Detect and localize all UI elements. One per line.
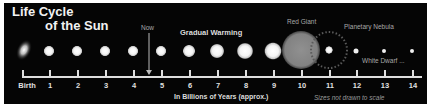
tick-8 (245, 70, 247, 77)
sun-stage-5-icon (156, 46, 167, 57)
sun-stage-1-icon (44, 46, 55, 57)
tick-10 (301, 70, 303, 77)
tick-label-11: 11 (326, 81, 334, 90)
axis-label: In Billions of Years (approx.) (174, 93, 268, 100)
tick-label-6: 6 (188, 81, 192, 90)
tick-9 (273, 70, 275, 77)
sun-stage-8-icon (237, 43, 254, 60)
sun-stage-7-icon (210, 44, 225, 59)
tick-2 (77, 70, 79, 77)
sun-stage-9-icon (264, 42, 282, 60)
now-arrow-icon (146, 33, 152, 75)
tick-label-14: 14 (409, 81, 417, 90)
tick-label-5: 5 (160, 81, 164, 90)
sun-stage-3-icon (100, 46, 111, 57)
tick-label-12: 12 (353, 81, 361, 90)
timeline-axis (22, 76, 422, 78)
white-dwarf-stage-14-icon (410, 49, 414, 53)
tick-5 (161, 70, 163, 77)
tick-label-9: 9 (272, 81, 276, 90)
tick-1 (49, 70, 51, 77)
tick-3 (105, 70, 107, 77)
sun-stage-2-icon (72, 46, 83, 57)
tick-11 (329, 70, 331, 77)
tick-7 (217, 70, 219, 77)
tick-14 (412, 70, 414, 77)
protostar-icon (13, 37, 35, 63)
sun-stage-6-icon (183, 45, 196, 58)
tick-13 (384, 70, 386, 77)
tick-label-4: 4 (132, 81, 136, 90)
tick-birth (22, 70, 24, 77)
tick-6 (189, 70, 191, 77)
tick-label-7: 7 (216, 81, 220, 90)
scale-note: Sizes not drawn to scale (314, 94, 384, 101)
tick-label-birth: Birth (18, 81, 36, 90)
tick-label-8: 8 (244, 81, 248, 90)
red-giant-icon (282, 31, 320, 69)
life-cycle-diagram: Life Cycle of the Sun Now Gradual Warmin… (4, 3, 427, 104)
sun-stage-4-icon (128, 46, 139, 57)
white-dwarf-stage-13-icon (382, 49, 386, 53)
tick-12 (356, 70, 358, 77)
tick-label-3: 3 (104, 81, 108, 90)
tick-label-1: 1 (48, 81, 52, 90)
tick-label-10: 10 (298, 81, 306, 90)
white-dwarf-stage-12-icon (354, 49, 359, 54)
tick-4 (133, 70, 135, 77)
tick-label-13: 13 (381, 81, 389, 90)
tick-label-2: 2 (76, 81, 80, 90)
